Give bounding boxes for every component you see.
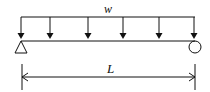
beam-diagram: w L [0,0,210,92]
length-label: L [106,61,114,76]
load-label: w [104,2,112,16]
load-arrows [18,17,198,39]
roller-support-icon [189,41,201,53]
pin-support-icon [15,41,27,53]
